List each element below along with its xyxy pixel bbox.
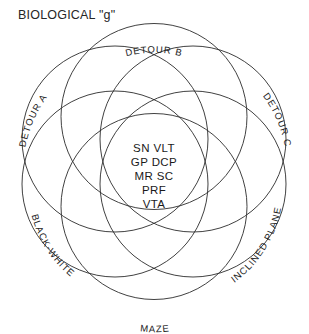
venn-circle-detour-c <box>100 46 286 232</box>
center-line-1: SN VLT <box>133 142 175 154</box>
center-line-4: PRF <box>142 184 166 196</box>
center-region-labels: SN VLT GP DCP MR SC PRF VTA <box>131 142 177 210</box>
center-line-5: VTA <box>143 198 166 210</box>
venn-circle-detour-a <box>22 46 208 232</box>
biological-g-venn-figure: BIOLOGICAL "g" DETOUR B DETOUR A <box>0 0 309 334</box>
circle-label-maze: MAZE <box>140 322 170 334</box>
center-line-2: GP DCP <box>131 156 177 168</box>
circle-label-detour-b: DETOUR B <box>124 44 184 59</box>
circle-label-detour-a: DETOUR A <box>17 92 50 148</box>
venn-diagram-canvas: DETOUR B DETOUR A DETOUR C BLACK-WHITE I… <box>0 0 309 334</box>
circle-label-inclined-plane: INCLINED PLANE <box>229 206 283 285</box>
center-line-3: MR SC <box>134 170 173 182</box>
